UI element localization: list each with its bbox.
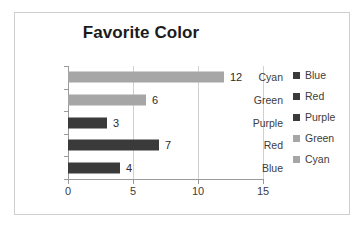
- legend-swatch-icon: [293, 135, 300, 142]
- category-label: Purple: [237, 117, 283, 129]
- x-axis-tick-label: 0: [65, 185, 71, 197]
- y-axis-tick: [64, 111, 68, 112]
- x-axis-tick-label: 10: [192, 185, 204, 197]
- legend-label: Cyan: [305, 154, 330, 165]
- legend-label: Purple: [305, 112, 335, 123]
- bar[interactable]: [68, 117, 107, 128]
- x-axis-tick-label: 15: [257, 185, 269, 197]
- legend-item[interactable]: Blue: [293, 65, 363, 86]
- legend-item[interactable]: Red: [293, 86, 363, 107]
- category-label: Red: [237, 139, 283, 151]
- legend-swatch-icon: [293, 114, 300, 121]
- x-axis-line: [68, 179, 264, 180]
- chart-frame: Favorite Color CyanGreenPurpleRedBlue 12…: [14, 12, 350, 215]
- bar-value-label: 4: [126, 162, 132, 174]
- bar[interactable]: [68, 140, 159, 151]
- legend-label: Blue: [305, 70, 326, 81]
- legend-item[interactable]: Purple: [293, 107, 363, 128]
- category-label: Blue: [237, 162, 283, 174]
- category-label: Cyan: [237, 71, 283, 83]
- chart-legend: BlueRedPurpleGreenCyan: [293, 65, 363, 170]
- gridline: [133, 66, 134, 179]
- chart-title: Favorite Color: [15, 23, 267, 43]
- legend-item[interactable]: Green: [293, 128, 363, 149]
- legend-swatch-icon: [293, 156, 300, 163]
- x-axis-tick: [133, 180, 134, 184]
- bar-value-label: 12: [230, 71, 242, 83]
- x-axis-tick: [263, 180, 264, 184]
- bar-value-label: 7: [165, 139, 171, 151]
- x-axis-tick: [198, 180, 199, 184]
- bar[interactable]: [68, 162, 120, 173]
- legend-item[interactable]: Cyan: [293, 149, 363, 170]
- y-axis-tick: [64, 89, 68, 90]
- plot-area-wrapper: CyanGreenPurpleRedBlue 126374 051015: [15, 59, 283, 209]
- legend-swatch-icon: [293, 72, 300, 79]
- bar-value-label: 3: [113, 117, 119, 129]
- y-axis-tick: [64, 66, 68, 67]
- x-axis-tick: [68, 180, 69, 184]
- y-axis-tick: [64, 156, 68, 157]
- bar[interactable]: [68, 94, 146, 105]
- category-label: Green: [237, 94, 283, 106]
- bar-value-label: 6: [152, 94, 158, 106]
- gridline: [198, 66, 199, 179]
- y-axis-tick: [64, 134, 68, 135]
- legend-label: Red: [305, 91, 324, 102]
- bar[interactable]: [68, 72, 224, 83]
- legend-label: Green: [305, 133, 334, 144]
- x-axis-tick-label: 5: [130, 185, 136, 197]
- legend-swatch-icon: [293, 93, 300, 100]
